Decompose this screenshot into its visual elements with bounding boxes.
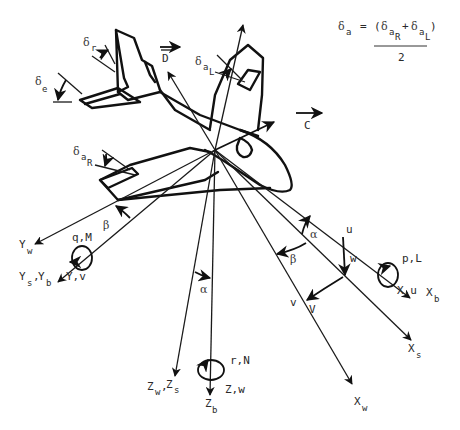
v-velocity-label: V (309, 303, 316, 316)
aileron-equation: δ a = ( δ a R + δ a L ) 2 (338, 20, 437, 64)
right-aileron-sub: a (81, 152, 86, 162)
w-component-arrow (343, 237, 345, 275)
moment-icons: p,L q,M r,N (70, 231, 422, 380)
yaw-moment-label: r,N (230, 354, 250, 367)
side-force-axis (215, 122, 274, 150)
u-label: u (346, 223, 353, 236)
rudder-sub: r (91, 43, 97, 53)
eq-lhs-sub: a (346, 27, 351, 37)
v-label: v (290, 296, 297, 309)
eq-equals: = (360, 20, 367, 33)
x-body-sub: b (434, 294, 439, 304)
y-force-label: Y,v (66, 270, 86, 283)
left-aileron-symbol: δ (195, 55, 202, 68)
fuselage-top (118, 92, 258, 136)
roll-moment-label: p,L (402, 252, 422, 265)
alpha-label-bottom: α (200, 283, 208, 296)
roll-moment-icon (378, 263, 398, 287)
x-wind-sub: w (362, 403, 368, 413)
x-stability-label: X (408, 342, 415, 355)
velocity-components: u w v V (290, 223, 357, 316)
z-stab-label: Z (166, 378, 173, 391)
right-aileron-subsub: R (87, 158, 93, 168)
coordinate-axes (35, 25, 411, 395)
z-body-label: Z (205, 397, 212, 410)
right-aileron-symbol: δ (73, 145, 80, 158)
x-wind-axis (215, 150, 352, 384)
force-labels: D C (160, 47, 322, 132)
z-wind-axis (175, 150, 215, 376)
pitch-moment-icon (70, 246, 92, 270)
y-body-label: Y (38, 270, 45, 283)
eq-lhs-symbol: δ (338, 20, 345, 33)
eq-term2-sub: a (419, 27, 424, 37)
z-body-sub: b (212, 405, 217, 415)
alpha-label-right: α (310, 228, 318, 241)
beta-label-right: β (290, 253, 296, 266)
eq-denominator: 2 (398, 51, 405, 64)
right-aileron-deflection-icon (105, 154, 106, 166)
eq-term2-symbol: δ (411, 20, 418, 33)
elevator-sub: e (42, 84, 47, 94)
y-wind-axis (35, 150, 215, 244)
y-stab-sub: s (27, 278, 32, 288)
eq-close-paren: ) (430, 20, 437, 33)
beta-arc-left-icon (116, 206, 130, 218)
y-wind-label: Y (19, 238, 26, 251)
y-wind-sub: w (27, 246, 33, 256)
drag-label: D (162, 52, 169, 65)
eq-term2-subsub: L (425, 32, 430, 42)
force-velocity-labels: X,u Y,v Z,w (66, 270, 417, 396)
vertical-tail (116, 30, 128, 92)
x-body-label: X (426, 286, 433, 299)
z-wind-label: Z (147, 380, 154, 393)
side-force-label: C (304, 119, 311, 132)
pitch-moment-label: q,M (72, 231, 92, 244)
eq-term1-sub: a (389, 27, 394, 37)
elevator-symbol: δ (35, 75, 42, 88)
eq-term1-subsub: R (395, 32, 401, 42)
left-aileron-subsub: L (209, 67, 214, 77)
rudder-symbol: δ (83, 36, 90, 49)
angle-indicators: β α α β (103, 206, 318, 296)
y-body-sub: b (46, 278, 51, 288)
y-body-axis (58, 150, 215, 282)
rudder-deflection-icon (100, 50, 108, 58)
x-wind-label: X (354, 395, 361, 408)
x-stability-sub: s (416, 350, 421, 360)
aircraft-axes-diagram: δ a = ( δ a R + δ a L ) 2 (0, 0, 460, 430)
z-stab-sub: s (174, 385, 179, 395)
y-stab-label: Y (19, 270, 26, 283)
elevator-deflection-icon (58, 80, 66, 100)
v-component-arrow (307, 277, 343, 300)
left-wing (210, 45, 263, 130)
left-aileron-sub: a (203, 62, 208, 72)
w-label: w (350, 252, 357, 265)
cockpit (237, 138, 252, 157)
z-body-axis (210, 150, 215, 395)
x-force-label: X,u (397, 284, 417, 297)
alpha-arc-bottom-icon (195, 272, 210, 278)
eq-plus: + (402, 20, 409, 33)
eq-open-paren: ( (374, 20, 381, 33)
beta-label-left: β (103, 219, 109, 232)
x-body-axis (215, 150, 410, 298)
z-force-label: Z,w (225, 383, 245, 396)
eq-term1-symbol: δ (381, 20, 388, 33)
